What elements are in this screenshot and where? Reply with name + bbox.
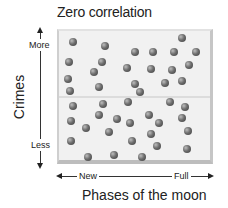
data-point [113,115,121,123]
data-point [67,117,75,125]
data-point [147,65,155,73]
data-point [95,83,103,91]
arrow-right-icon [208,173,214,179]
data-point [166,98,174,106]
y-axis-label-more: More [29,39,50,51]
x-axis-title: Phases of the moon [82,187,207,203]
data-point [168,66,176,74]
data-point [64,75,72,83]
data-point [99,100,107,108]
data-point [145,111,153,119]
x-axis-label-full: Full [172,171,191,181]
y-axis-label-less: Less [31,139,50,151]
data-point [110,151,118,159]
data-point [66,87,74,95]
data-point [178,114,186,122]
data-point [138,153,146,161]
data-point [126,119,134,127]
data-point [101,42,109,50]
arrow-up-icon [37,27,43,33]
data-point [153,142,161,150]
data-point [181,103,189,111]
data-point [131,80,139,88]
data-point [149,48,157,56]
x-axis-label-new: New [77,171,99,181]
data-point [105,128,113,136]
data-point [147,130,155,138]
chart-title: Zero correlation [57,4,152,20]
data-point [136,88,144,96]
data-point [183,145,191,153]
data-point [90,68,98,76]
data-point [98,58,106,66]
plot-divider [59,96,210,98]
data-point [95,111,103,119]
data-point [185,61,193,69]
data-point [123,64,131,72]
data-point [131,48,139,56]
y-axis-title: Crimes [11,72,27,122]
data-point [84,153,92,161]
data-point [184,127,192,135]
data-point [82,124,90,132]
data-point [124,98,132,106]
data-point [192,48,200,56]
data-point [69,102,77,110]
data-point [65,58,73,66]
data-point [67,137,75,145]
data-point [178,34,186,42]
data-point [155,119,163,127]
arrow-down-icon [37,163,43,169]
data-point [128,137,136,145]
arrow-left-icon [56,173,62,179]
data-point [170,48,178,56]
data-point [69,38,77,46]
data-point [178,77,186,85]
data-point [161,79,169,87]
